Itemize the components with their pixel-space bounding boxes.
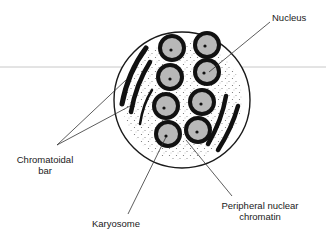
nucleus: [158, 65, 182, 89]
nucleus: [154, 94, 178, 118]
karyosome-dot: [203, 44, 206, 47]
label-karyosome-text: Karyosome: [92, 218, 140, 229]
karyosome-dot: [168, 77, 171, 80]
label-karyosome: Karyosome: [92, 218, 140, 229]
nucleus: [195, 33, 219, 57]
label-peripheral-line1: Peripheral nuclear: [200, 200, 320, 211]
karyosome-dot: [195, 130, 198, 133]
karyosome-dot: [199, 102, 202, 105]
label-nucleus: Nucleus: [272, 12, 306, 23]
karyosome-dot: [162, 106, 165, 109]
label-chromatoidal-bar: Chromatoidal bar: [10, 154, 80, 176]
nucleus: [186, 118, 210, 142]
nucleus: [156, 122, 180, 146]
nucleus: [190, 90, 214, 114]
nucleus: [160, 36, 184, 60]
karyosome-dot: [202, 71, 205, 74]
nucleus: [195, 60, 219, 84]
label-chromatoidal-line2: bar: [10, 165, 80, 176]
karyosome-dot: [169, 48, 172, 51]
label-chromatoidal-line1: Chromatoidal: [10, 154, 80, 165]
label-peripheral-nuclear-chromatin: Peripheral nuclear chromatin: [200, 200, 320, 222]
label-nucleus-text: Nucleus: [272, 12, 306, 23]
label-peripheral-line2: chromatin: [200, 211, 320, 222]
